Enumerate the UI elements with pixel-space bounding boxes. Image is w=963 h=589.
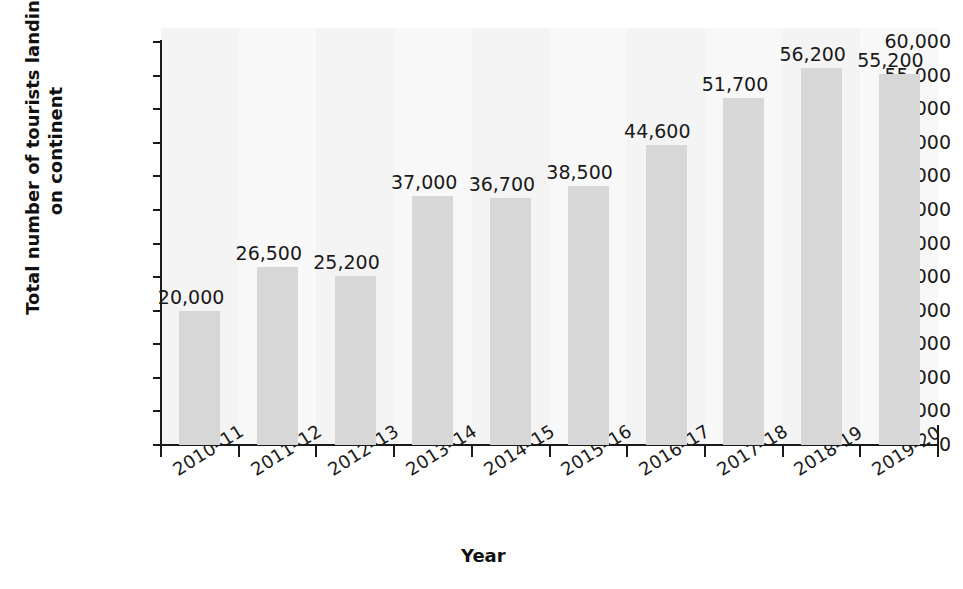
- y-axis-tick: [153, 343, 161, 345]
- y-axis-tick: [153, 377, 161, 379]
- y-axis-tick: [153, 310, 161, 312]
- y-axis-tick: [153, 41, 161, 43]
- bar-value-label: 25,200: [313, 253, 379, 272]
- x-axis-title: Year: [461, 545, 506, 566]
- bar: [335, 276, 376, 445]
- y-axis-title: Total number of tourists landing on cont…: [21, 0, 67, 321]
- x-axis-tick: [160, 446, 162, 457]
- x-axis-tick: [471, 446, 473, 457]
- bar: [179, 311, 220, 445]
- bar-value-label: 36,700: [469, 175, 535, 194]
- y-axis-tick: [153, 75, 161, 77]
- y-axis-tick: [153, 175, 161, 177]
- bar-value-label: 55,200: [857, 51, 923, 70]
- bar: [412, 196, 453, 445]
- bar-chart: 05,00010,00015,00020,00025,00030,00035,0…: [0, 0, 963, 589]
- bar-value-label: 51,700: [702, 75, 768, 94]
- x-axis-tick: [315, 446, 317, 457]
- y-axis-tick: [153, 243, 161, 245]
- y-axis-tick: [153, 209, 161, 211]
- bar: [723, 98, 764, 445]
- x-axis-tick: [393, 446, 395, 457]
- bar-value-label: 26,500: [236, 244, 302, 263]
- y-axis-tick: [153, 276, 161, 278]
- bar: [490, 198, 531, 445]
- bar-value-label: 38,500: [546, 163, 612, 182]
- y-axis-tick: [153, 410, 161, 412]
- bar: [801, 68, 842, 445]
- x-axis-tick: [549, 446, 551, 457]
- bar-value-label: 37,000: [391, 173, 457, 192]
- x-axis-tick: [626, 446, 628, 457]
- x-axis-tick: [859, 446, 861, 457]
- x-axis-tick: [937, 446, 939, 457]
- y-axis-title-line-2: on continent: [44, 0, 67, 321]
- bar: [646, 145, 687, 445]
- y-axis-tick: [153, 142, 161, 144]
- bar-value-label: 20,000: [158, 288, 224, 307]
- bar-value-label: 56,200: [779, 45, 845, 64]
- bar-value-label: 44,600: [624, 122, 690, 141]
- x-axis-tick: [782, 446, 784, 457]
- x-axis-tick: [704, 446, 706, 457]
- x-axis-tick: [238, 446, 240, 457]
- bar: [568, 186, 609, 445]
- bar: [257, 267, 298, 445]
- y-axis-title-line-1: Total number of tourists landing: [21, 0, 44, 321]
- y-axis-tick: [153, 108, 161, 110]
- bar: [879, 74, 920, 445]
